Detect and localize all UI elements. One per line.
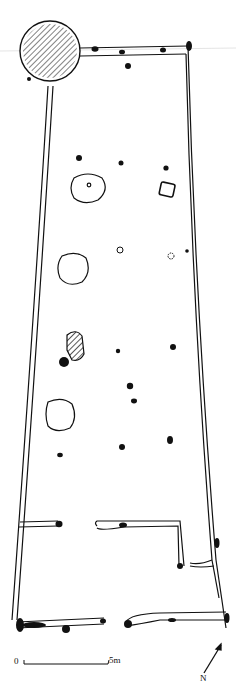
square-feature [159,182,175,198]
lower-wall-postholes [16,521,230,633]
north-label: N [200,673,207,683]
hatched-corner-circle [20,21,80,81]
pit-3 [46,399,75,430]
site-plan-drawing [0,0,236,684]
scale-end-label: 5m [109,655,121,665]
hatched-feature [59,332,84,367]
pit-2 [58,253,88,284]
pits [46,174,105,431]
pit-1 [71,174,105,203]
enclosure-walls [12,46,226,628]
small-rings [117,247,174,259]
scale-bar [24,660,109,664]
postholes [57,63,189,457]
scale-start-label: 0 [14,656,19,666]
north-arrow-icon [204,644,221,673]
partition-walls [17,521,226,628]
